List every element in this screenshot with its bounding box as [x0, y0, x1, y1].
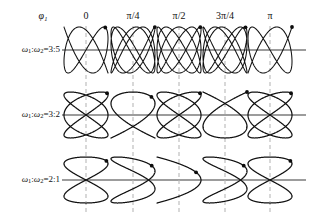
curve-start-marker-3-5-col2 — [198, 25, 202, 29]
curve-start-marker-3-2-col2 — [198, 91, 202, 95]
curve-start-marker-2-1-col2 — [194, 170, 198, 174]
column-header-pi-2: π/2 — [173, 10, 186, 21]
curve-start-marker-2-1-col3 — [242, 164, 246, 168]
curve-start-marker-3-2-col4 — [289, 91, 293, 95]
column-header-3pi-4: 3π/4 — [216, 10, 234, 21]
curve-start-marker-3-5-col1 — [153, 25, 157, 29]
curve-start-marker-3-2-col1 — [150, 95, 154, 99]
curve-start-marker-2-1-col0 — [105, 159, 109, 163]
curve-start-marker-2-1-col1 — [150, 164, 154, 168]
curve-start-marker-3-5-col3 — [244, 25, 248, 29]
lissajous-figure-plate: φ1 0 π/4 π/2 3π/4 π ω1:ω2=3:5 ω1:ω2=3:2 … — [0, 0, 314, 218]
curve-start-marker-3-2-col0 — [105, 91, 109, 95]
lissajous-svg-canvas: φ1 0 π/4 π/2 3π/4 π ω1:ω2=3:5 ω1:ω2=3:2 … — [0, 0, 314, 218]
column-header-0: 0 — [84, 10, 89, 21]
column-header-pi: π — [267, 10, 272, 21]
curve-start-marker-3-5-col0 — [103, 26, 107, 30]
curve-start-marker-3-5-col4 — [290, 25, 294, 29]
column-header-pi-4: π/4 — [127, 10, 140, 21]
curve-start-marker-2-1-col4 — [289, 159, 293, 163]
